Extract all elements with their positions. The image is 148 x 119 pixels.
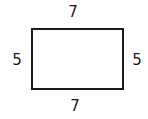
rectangle-outline	[32, 29, 123, 89]
top-side-length-label: 7	[58, 5, 88, 20]
bottom-side-length-label: 7	[60, 99, 90, 114]
rectangle-figure: 7 5 5 7	[0, 0, 148, 119]
left-side-length-label: 5	[8, 53, 26, 68]
right-side-length-label: 5	[128, 53, 146, 68]
